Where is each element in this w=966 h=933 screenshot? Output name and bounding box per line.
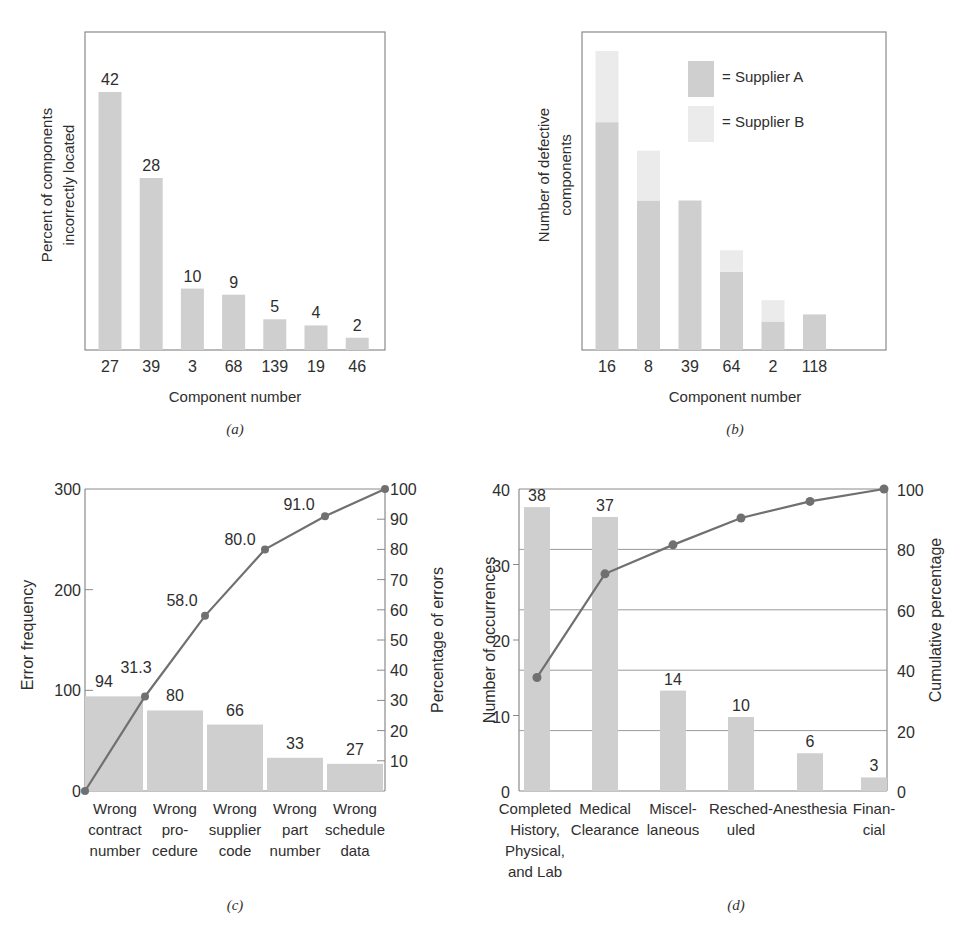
x-tick-label: 64 [723,358,741,375]
cumulative-point [806,497,815,506]
y-axis-label-line1: Number of defective [535,108,552,242]
bar [346,338,369,350]
bar-value-label: 9 [229,274,238,291]
cumulative-point [81,787,89,795]
x-tick-label: Physical, [505,842,565,859]
bar-value-label: 38 [528,487,546,504]
x-tick-label: cedure [152,842,198,859]
y2-tick-label: 30 [390,692,408,709]
x-tick-label: Completed [499,800,572,817]
bar [263,319,286,350]
x-tick-label: 19 [307,358,325,375]
bar-value-label: 66 [226,702,244,719]
y-tick-label: 200 [54,582,81,599]
cumulative-line [537,489,884,677]
x-tick-label: Anesthesia [773,800,848,817]
bar-value-label: 33 [286,735,304,752]
x-axis-label: Component number [669,388,802,405]
y2-tick-label: 50 [390,632,408,649]
x-tick-label: schedule [325,821,385,838]
x-axis-label: Component number [169,388,302,405]
x-tick-label: Wrong [153,800,197,817]
bar [99,92,122,350]
legend-swatch-supplier-a [688,61,714,97]
panel-caption: (a) [226,421,244,438]
y2-tick-label: 60 [897,603,915,620]
y2-tick-label: 0 [897,784,906,801]
bar-value-label: 5 [270,298,279,315]
bar-value-label: 14 [664,671,682,688]
y-tick-label: 40 [492,482,510,499]
y2-tick-label: 70 [390,572,408,589]
x-tick-label: laneous [647,821,700,838]
bar [327,764,383,791]
bar-value-label: 37 [596,497,614,514]
bar-supplier-a [637,201,660,351]
panel-caption: (b) [726,421,744,438]
bar [861,777,887,791]
y2-tick-label: 20 [390,723,408,740]
cumulative-point [141,692,149,700]
bar [660,691,686,791]
x-tick-label: 39 [681,358,699,375]
legend-label-supplier-a: = Supplier A [722,68,803,85]
bar [222,295,245,350]
bar-supplier-a [679,201,702,351]
y-axis-label: Error frequency [19,580,36,690]
panel-caption: (c) [227,897,244,914]
bar-value-label: 94 [95,673,113,690]
bar [305,325,328,350]
chart-panel-c: 010020030010203040506070809010094Wrongco… [19,481,446,914]
x-tick-label: supplier [209,821,262,838]
chart-panel-a: 422728391039685139419246Component number… [38,32,385,438]
cumulative-point [533,673,542,682]
bar-supplier-b [720,250,743,271]
y-tick-label: 100 [54,682,81,699]
bar-value-label: 27 [346,741,364,758]
y-axis-label-line2: components [557,134,574,216]
x-tick-label: 139 [261,358,288,375]
y2-tick-label: 40 [897,663,915,680]
chart-panel-b: 16839642118= Supplier A= Supplier BCompo… [535,32,886,438]
x-tick-label: Finan- [853,800,896,817]
y2-tick-label: 60 [390,602,408,619]
pareto-figure: 422728391039685139419246Component number… [0,0,966,933]
bar-value-label: 3 [870,757,879,774]
legend-label-supplier-b: = Supplier B [722,113,804,130]
cumulative-point [880,485,889,494]
x-tick-label: 39 [142,358,160,375]
x-tick-label: 2 [769,358,778,375]
x-tick-label: Miscel- [649,800,697,817]
x-tick-label: 118 [802,358,828,375]
chart-panel-d: 01020304002040608010038CompletedHistory,… [481,482,944,914]
x-tick-label: Wrong [213,800,257,817]
y-tick-label: 0 [501,784,510,801]
y2-tick-label: 100 [897,482,924,499]
bar [797,753,823,791]
x-tick-label: Wrong [93,800,137,817]
bar-supplier-a [803,314,826,350]
x-tick-label: 68 [225,358,243,375]
x-tick-label: 16 [598,358,616,375]
cumulative-point [261,545,269,553]
x-tick-label: Medical [579,800,631,817]
bar-supplier-b [596,51,619,122]
x-tick-label: 27 [101,358,119,375]
x-tick-label: number [90,842,141,859]
legend-swatch-supplier-b [688,106,714,142]
bar-supplier-a [720,272,743,350]
y2-tick-label: 40 [390,662,408,679]
cumulative-point [737,513,746,522]
y-axis-label: Number of occurrences [481,557,498,723]
bar [267,758,323,791]
bar-supplier-b [637,151,660,201]
x-tick-label: code [219,842,252,859]
y-axis-label-line2: incorrectly located [60,125,77,246]
cumulative-label: 80.0 [224,531,255,548]
bar-value-label: 2 [353,317,362,334]
cumulative-label: 91.0 [283,496,314,513]
y2-axis-label: Cumulative percentage [927,538,944,703]
cumulative-point [601,569,610,578]
x-tick-label: number [270,842,321,859]
bar-value-label: 28 [142,157,160,174]
